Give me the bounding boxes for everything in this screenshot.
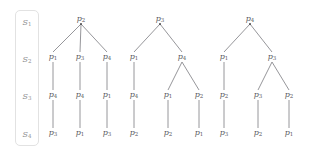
tree-node: p3 bbox=[254, 91, 263, 99]
tree-node-subscript: 3 bbox=[225, 131, 229, 137]
tree-node-subscript: 4 bbox=[135, 93, 139, 99]
tree-node-subscript: 3 bbox=[54, 131, 58, 137]
tree-node-subscript: 4 bbox=[251, 17, 255, 23]
tree-node-subscript: 2 bbox=[169, 131, 173, 137]
tree-node-subscript: 3 bbox=[108, 131, 112, 137]
tree-node: p2 bbox=[130, 129, 139, 137]
tree-node: p3 bbox=[103, 129, 112, 137]
tree-node: p4 bbox=[49, 91, 58, 99]
tree-edge bbox=[258, 62, 272, 90]
tree-edge bbox=[250, 24, 272, 52]
stage-label-4: S4 bbox=[15, 131, 39, 139]
tree-node: p4 bbox=[103, 53, 112, 61]
tree-node-subscript: 1 bbox=[54, 55, 58, 61]
tree-node: p1 bbox=[164, 91, 173, 99]
tree-root-dot bbox=[80, 23, 82, 25]
tree-node-subscript: 4 bbox=[81, 93, 85, 99]
tree-node: p1 bbox=[130, 53, 139, 61]
tree-node-subscript: 2 bbox=[290, 93, 294, 99]
tree-node-subscript: 1 bbox=[135, 55, 139, 61]
tree-node-subscript: 3 bbox=[259, 93, 263, 99]
stage-label-subscript: 4 bbox=[28, 133, 32, 139]
tree-node-subscript: 1 bbox=[108, 93, 112, 99]
tree-diagram-figure: S1S2S3S4 p2p1p3p4p4p4p1p3p1p3p3p1p4p4p1p… bbox=[0, 0, 313, 153]
tree-node: p1 bbox=[195, 129, 204, 137]
tree-node: p3 bbox=[220, 129, 229, 137]
tree-node-subscript: 3 bbox=[273, 55, 277, 61]
tree-node: p1 bbox=[103, 91, 112, 99]
tree-node: p4 bbox=[76, 91, 85, 99]
tree-node-subscript: 2 bbox=[225, 93, 229, 99]
tree-root-dot bbox=[249, 23, 251, 25]
tree-edge bbox=[272, 62, 289, 90]
tree-node: p3 bbox=[156, 15, 165, 23]
tree-node: p2 bbox=[220, 91, 229, 99]
stage-label-subscript: 3 bbox=[28, 95, 32, 101]
tree-node-subscript: 4 bbox=[183, 55, 187, 61]
tree-node-subscript: 1 bbox=[169, 93, 173, 99]
tree-edge bbox=[160, 24, 182, 52]
tree-node-subscript: 3 bbox=[161, 17, 165, 23]
tree-node: p1 bbox=[220, 53, 229, 61]
tree-edge bbox=[134, 24, 160, 52]
tree-node-subscript: 4 bbox=[108, 55, 112, 61]
stage-label-1: S1 bbox=[15, 19, 39, 27]
tree-node: p1 bbox=[76, 129, 85, 137]
tree-node: p1 bbox=[285, 129, 294, 137]
stage-label-2: S2 bbox=[15, 56, 39, 64]
tree-node: p3 bbox=[268, 53, 277, 61]
tree-edge bbox=[168, 62, 182, 90]
tree-edge bbox=[53, 24, 81, 52]
tree-edge bbox=[224, 24, 250, 52]
tree-edge bbox=[182, 62, 199, 90]
tree-node-subscript: 1 bbox=[290, 131, 294, 137]
tree-node-subscript: 2 bbox=[82, 17, 86, 23]
tree-node-subscript: 1 bbox=[225, 55, 229, 61]
tree-node-subscript: 1 bbox=[81, 131, 85, 137]
tree-node-subscript: 1 bbox=[200, 131, 204, 137]
tree-node-subscript: 2 bbox=[200, 93, 204, 99]
tree-node-subscript: 2 bbox=[259, 131, 263, 137]
tree-node: p4 bbox=[130, 91, 139, 99]
tree-edge bbox=[80, 24, 81, 52]
tree-node: p4 bbox=[246, 15, 255, 23]
tree-node-subscript: 2 bbox=[135, 131, 139, 137]
tree-node: p3 bbox=[76, 53, 85, 61]
tree-node: p2 bbox=[254, 129, 263, 137]
tree-node: p2 bbox=[164, 129, 173, 137]
tree-node-subscript: 3 bbox=[81, 55, 85, 61]
tree-node-subscript: 4 bbox=[54, 93, 58, 99]
tree-edge bbox=[81, 24, 107, 52]
stage-label-3: S3 bbox=[15, 93, 39, 101]
tree-node: p2 bbox=[195, 91, 204, 99]
tree-node: p2 bbox=[285, 91, 294, 99]
tree-node: p2 bbox=[77, 15, 86, 23]
stage-label-subscript: 2 bbox=[28, 58, 32, 64]
tree-node: p1 bbox=[49, 53, 58, 61]
tree-node: p4 bbox=[178, 53, 187, 61]
tree-root-dot bbox=[159, 23, 161, 25]
tree-node: p3 bbox=[49, 129, 58, 137]
stage-label-subscript: 1 bbox=[28, 21, 32, 27]
